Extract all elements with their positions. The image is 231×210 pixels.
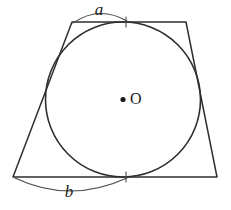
geometry-figure-container: a b O — [0, 0, 231, 210]
label-a: a — [95, 0, 104, 19]
geometry-diagram-canvas: a b O — [0, 0, 231, 210]
center-point-dot-icon — [120, 97, 125, 102]
label-b: b — [65, 182, 74, 201]
label-center-o: O — [130, 90, 142, 107]
diagram-background — [0, 0, 231, 210]
